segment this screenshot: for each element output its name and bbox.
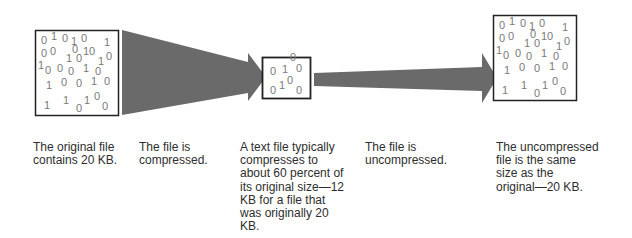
svg-text:1: 1 bbox=[524, 37, 530, 49]
svg-text:0: 0 bbox=[560, 85, 566, 97]
uncompress-arrow-icon bbox=[314, 53, 497, 103]
svg-text:0: 0 bbox=[552, 75, 558, 87]
svg-text:1: 1 bbox=[521, 79, 527, 91]
svg-text:0: 0 bbox=[539, 17, 545, 29]
svg-text:1: 1 bbox=[509, 15, 515, 27]
svg-text:0: 0 bbox=[76, 52, 82, 64]
svg-text:1: 1 bbox=[496, 44, 502, 56]
svg-text:0: 0 bbox=[45, 64, 51, 76]
svg-text:0: 0 bbox=[526, 50, 532, 62]
svg-text:0: 0 bbox=[534, 37, 540, 49]
svg-text:10: 10 bbox=[541, 30, 553, 42]
svg-text:1: 1 bbox=[502, 84, 508, 96]
svg-text:1: 1 bbox=[83, 62, 89, 74]
svg-text:0: 0 bbox=[41, 34, 47, 46]
uncompressed-file-icon: 010101 00010 1010 100010 10010 110100 bbox=[494, 15, 577, 101]
svg-text:0: 0 bbox=[81, 32, 87, 44]
svg-text:0: 0 bbox=[94, 90, 100, 102]
svg-text:1: 1 bbox=[504, 64, 510, 76]
svg-text:0: 0 bbox=[76, 77, 82, 89]
svg-text:1: 1 bbox=[279, 79, 285, 91]
svg-text:1: 1 bbox=[38, 59, 44, 71]
svg-text:0: 0 bbox=[270, 84, 276, 96]
caption-uncompress: The file is uncompressed. bbox=[365, 141, 447, 167]
compression-diagram: 010101 00010 1010 100010 10010 110100 0 … bbox=[0, 0, 632, 238]
svg-text:0: 0 bbox=[503, 49, 509, 61]
compress-arrow-icon bbox=[122, 30, 266, 115]
svg-text:0: 0 bbox=[520, 17, 526, 29]
svg-text:0: 0 bbox=[50, 45, 56, 57]
svg-text:10: 10 bbox=[83, 45, 95, 57]
svg-text:0: 0 bbox=[562, 60, 568, 72]
svg-text:1: 1 bbox=[51, 30, 57, 42]
svg-text:0: 0 bbox=[515, 47, 521, 59]
svg-text:0: 0 bbox=[104, 75, 110, 87]
svg-text:0: 0 bbox=[499, 19, 505, 31]
svg-text:0: 0 bbox=[270, 65, 276, 77]
caption-original: The original file contains 20 KB. bbox=[33, 141, 117, 167]
compressed-file-icon: 0 010 1000 bbox=[263, 51, 311, 99]
svg-text:0: 0 bbox=[499, 32, 505, 44]
svg-text:0: 0 bbox=[106, 50, 112, 62]
svg-text:1: 1 bbox=[63, 94, 69, 106]
svg-text:1: 1 bbox=[549, 60, 555, 72]
svg-text:0: 0 bbox=[76, 102, 82, 114]
svg-text:0: 0 bbox=[102, 100, 108, 112]
svg-text:0: 0 bbox=[61, 76, 67, 88]
svg-text:0: 0 bbox=[296, 84, 302, 96]
svg-text:0: 0 bbox=[508, 30, 514, 42]
svg-text:1: 1 bbox=[542, 79, 548, 91]
svg-text:0: 0 bbox=[68, 65, 74, 77]
svg-text:0: 0 bbox=[296, 62, 302, 74]
caption-compressed: A text file typically compresses to abou… bbox=[240, 141, 344, 233]
svg-text:1: 1 bbox=[562, 21, 568, 33]
svg-text:1: 1 bbox=[104, 36, 110, 48]
svg-text:1: 1 bbox=[84, 94, 90, 106]
svg-text:0: 0 bbox=[287, 74, 293, 86]
svg-text:0: 0 bbox=[62, 32, 68, 44]
caption-uncompressed: The uncompressed file is the same size a… bbox=[496, 141, 599, 194]
svg-text:0: 0 bbox=[534, 87, 540, 99]
original-file-icon: 010101 00010 1010 100010 10010 110100 bbox=[36, 30, 119, 116]
caption-compress: The file is compressed. bbox=[139, 141, 208, 167]
svg-text:1: 1 bbox=[46, 79, 52, 91]
svg-text:0: 0 bbox=[41, 47, 47, 59]
svg-text:1: 1 bbox=[541, 47, 547, 59]
svg-text:0: 0 bbox=[519, 61, 525, 73]
svg-text:1: 1 bbox=[44, 99, 50, 111]
svg-text:0: 0 bbox=[57, 62, 63, 74]
svg-text:1: 1 bbox=[91, 75, 97, 87]
svg-text:0: 0 bbox=[534, 62, 540, 74]
svg-text:1: 1 bbox=[66, 52, 72, 64]
svg-text:0: 0 bbox=[564, 35, 570, 47]
